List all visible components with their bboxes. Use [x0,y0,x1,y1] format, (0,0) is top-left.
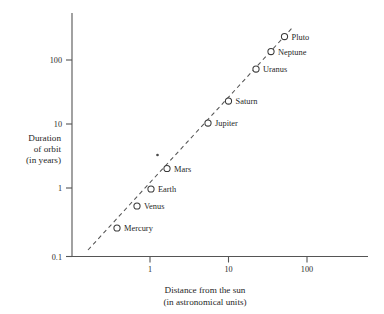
point-label: Pluto [292,33,310,42]
data-point-mars[interactable]: Mars [164,165,191,174]
point-label: Neptune [278,48,307,57]
point-label: Venus [144,202,164,211]
point-label: Jupiter [215,119,238,128]
x-axis-title-line1: Distance from the sun [165,285,246,295]
x-axis-ticks [150,257,307,263]
data-point-mercury[interactable]: Mercury [114,224,154,233]
data-point-venus[interactable]: Venus [134,202,165,211]
y-axis-title-line2: of orbit [34,144,62,154]
data-point-pluto[interactable]: Pluto [281,33,309,42]
y-axis-title-line3: (in years) [26,155,61,165]
y-axis-ticks [66,60,72,257]
marker-circle [164,165,170,171]
marker-circle [268,48,274,54]
data-point-earth[interactable]: Earth [148,185,177,194]
data-point-uranus[interactable]: Uranus [253,65,287,74]
x-tick-label-100: 100 [301,265,313,274]
data-point-jupiter[interactable]: Jupiter [205,119,238,128]
scatter-plot-svg: 100 10 1 0.1 1 10 100 Mercury Venus Eart… [0,0,384,314]
x-axis-title-line2: (in astronomical units) [163,297,246,307]
data-point-neptune[interactable]: Neptune [268,48,307,57]
marker-circle [205,120,211,126]
point-label: Mercury [124,224,154,233]
marker-circle [225,98,231,104]
marker-circle [114,225,120,231]
point-label: Earth [158,185,177,194]
y-axis-title: Duration of orbit (in years) [26,133,61,165]
data-point-saturn[interactable]: Saturn [225,97,258,106]
x-tick-label-10: 10 [224,265,232,274]
point-label: Saturn [236,97,259,106]
y-tick-label-100: 100 [50,56,62,65]
marker-circle [134,203,140,209]
y-tick-label-1: 1 [58,184,62,193]
marker-circle [148,186,154,192]
y-tick-label-10: 10 [54,120,62,129]
y-tick-label-0-1: 0.1 [52,253,62,262]
y-axis-title-line1: Duration [28,133,61,143]
x-axis-title: Distance from the sun (in astronomical u… [163,285,246,307]
chart-figure: 100 10 1 0.1 1 10 100 Mercury Venus Eart… [0,0,384,314]
marker-circle [253,66,259,72]
point-label: Uranus [263,65,287,74]
trend-line [88,27,293,250]
marker-circle [281,33,287,39]
point-label: Mars [174,165,191,174]
x-tick-label-1: 1 [148,265,152,274]
stray-ink-mark [156,154,159,157]
